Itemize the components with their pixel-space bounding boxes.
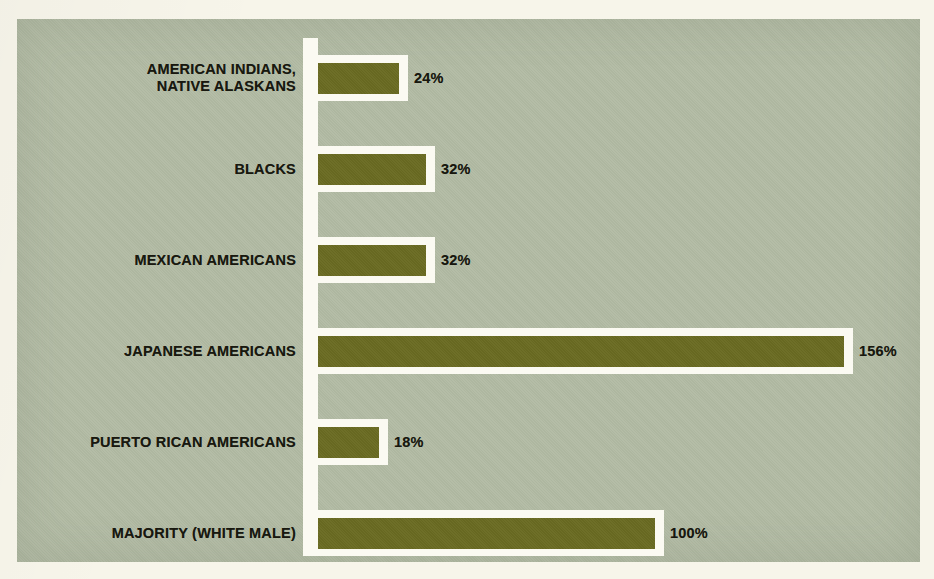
bar-row: MEXICAN AMERICANS32% [17, 237, 920, 283]
bar-outline [303, 55, 408, 101]
chart-panel: AMERICAN INDIANS, NATIVE ALASKANS24%BLAC… [17, 19, 920, 562]
bar-fill [318, 518, 655, 549]
bar-fill [318, 63, 399, 94]
bar-category-label: PUERTO RICAN AMERICANS [90, 434, 296, 451]
plot-area: AMERICAN INDIANS, NATIVE ALASKANS24%BLAC… [17, 19, 920, 562]
bar-value-label: 24% [414, 70, 444, 86]
page-background: AMERICAN INDIANS, NATIVE ALASKANS24%BLAC… [0, 0, 934, 579]
bar-outline [303, 419, 388, 465]
bar-row: PUERTO RICAN AMERICANS18% [17, 419, 920, 465]
bar-outline [303, 146, 435, 192]
bar-category-label: JAPANESE AMERICANS [124, 343, 296, 360]
bar-category-label: AMERICAN INDIANS, NATIVE ALASKANS [147, 61, 296, 95]
bar-outline [303, 237, 435, 283]
bar-value-label: 100% [670, 525, 708, 541]
bar-category-label: MEXICAN AMERICANS [134, 252, 296, 269]
bar-row: MAJORITY (WHITE MALE)100% [17, 510, 920, 556]
bar-outline [303, 328, 853, 374]
bar-fill [318, 427, 379, 458]
bar-category-label: MAJORITY (WHITE MALE) [112, 525, 296, 542]
bar-fill [318, 154, 426, 185]
bar-fill [318, 336, 844, 367]
bar-row: BLACKS32% [17, 146, 920, 192]
bar-row: AMERICAN INDIANS, NATIVE ALASKANS24% [17, 55, 920, 101]
bar-outline [303, 510, 664, 556]
bar-value-label: 18% [394, 434, 424, 450]
vertical-axis-baseline [303, 38, 318, 543]
bar-row: JAPANESE AMERICANS156% [17, 328, 920, 374]
bar-value-label: 32% [441, 252, 471, 268]
bar-category-label: BLACKS [234, 161, 296, 178]
bar-fill [318, 245, 426, 276]
bar-value-label: 32% [441, 161, 471, 177]
bar-value-label: 156% [859, 343, 897, 359]
